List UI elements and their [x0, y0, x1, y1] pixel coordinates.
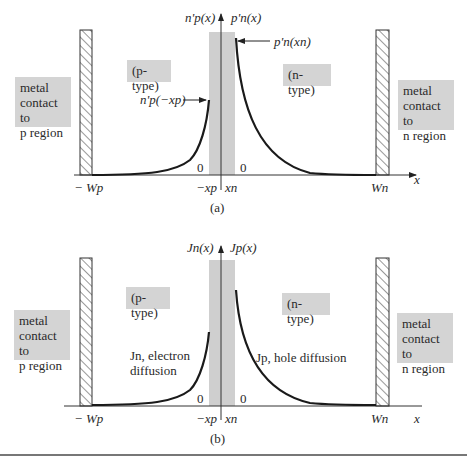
metal-contact-n-label: metal contact to n region [397, 313, 453, 363]
region-label-n-type: (n-type) [282, 293, 330, 315]
curve-label-electron-diffusion: Jn, electron diffusion [130, 348, 190, 378]
curve-label-line-1: Jn, electron [130, 348, 190, 363]
y-axis-label-pn: p'n(x) [231, 10, 261, 25]
zero-label-right: 0 [240, 391, 247, 406]
depletion-region [209, 32, 235, 175]
tick-neg-xp: −xp [196, 180, 217, 195]
metal-contact-right-hatch [376, 30, 389, 175]
tick-neg-xp: −xp [196, 411, 217, 426]
tick-neg-wp: − Wp [74, 411, 103, 426]
contact-line-1: metal [19, 313, 65, 328]
metal-contact-p-label: metal contact to p region [14, 310, 70, 360]
zero-label-right: 0 [240, 160, 247, 175]
tick-wn: Wn [371, 411, 388, 426]
curve-label-hole-diffusion: Jp, hole diffusion [256, 350, 346, 365]
y-axis-label-jn: Jn(x) [187, 240, 214, 255]
metal-contact-left-hatch [80, 258, 92, 406]
contact-line-1: metal [20, 80, 66, 95]
annotation-pn-xn: p'n(xn) [274, 34, 311, 49]
metal-contact-right-hatch [376, 258, 389, 406]
electron-concentration-curve [92, 100, 209, 175]
metal-contact-n-label: metal contact to n region [398, 80, 454, 130]
zero-label-left: 0 [197, 391, 204, 406]
caption-b: (b) [210, 431, 225, 447]
region-label-p-type: (p-type) [127, 60, 171, 82]
tick-wn: Wn [371, 180, 388, 195]
x-axis-label: x [414, 172, 420, 187]
contact-line-2: contact to [402, 331, 448, 361]
zero-label-left: 0 [197, 160, 204, 175]
x-axis-label: x [414, 411, 420, 426]
contact-line-3: p region [20, 125, 66, 140]
y-axis-label-jp: Jp(x) [230, 240, 257, 255]
region-label-p-type: (p-type) [126, 287, 170, 309]
contact-line-1: metal [403, 83, 449, 98]
contact-line-3: n region [403, 128, 449, 143]
contact-line-2: contact to [19, 328, 65, 358]
tick-neg-wp: − Wp [74, 180, 103, 195]
curve-label-line-2: diffusion [130, 363, 190, 378]
contact-line-3: n region [402, 361, 448, 376]
diagram-canvas [0, 0, 467, 462]
tick-xn: xn [225, 180, 237, 195]
caption-a: (a) [210, 200, 224, 216]
hole-concentration-curve [236, 38, 376, 175]
bottom-rule [0, 454, 467, 456]
region-label-n-type: (n-type) [283, 64, 331, 86]
metal-contact-left-hatch [80, 30, 92, 175]
contact-line-2: contact to [20, 95, 66, 125]
depletion-region [209, 260, 235, 406]
annotation-np-minus-xp: n'p(−xp) [140, 92, 185, 107]
y-axis-label-np: n'p(x) [185, 10, 215, 25]
contact-line-1: metal [402, 316, 448, 331]
metal-contact-p-label: metal contact to p region [15, 77, 71, 127]
contact-line-3: p region [19, 358, 65, 373]
contact-line-2: contact to [403, 98, 449, 128]
tick-xn: xn [225, 411, 237, 426]
